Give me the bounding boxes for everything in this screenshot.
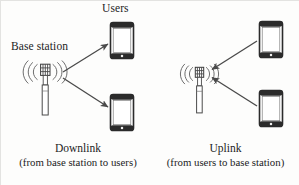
tower-mast xyxy=(42,85,48,115)
downlink-caption-title: Downlink xyxy=(0,142,156,156)
antenna-head-icon xyxy=(195,67,203,77)
base-station-tower-left xyxy=(23,61,67,115)
downlink-arrow-top xyxy=(63,44,108,72)
base-station-label: Base station xyxy=(11,40,68,52)
radio-wave-icon-left xyxy=(23,61,37,83)
base-station-tower-right xyxy=(180,64,219,113)
tower-neck xyxy=(198,77,202,86)
figure-canvas: Users Base station Downlink (from base s… xyxy=(0,0,299,185)
uplink-caption-title: Uplink xyxy=(152,142,299,156)
smartphone-icon-uplink-top xyxy=(260,22,283,58)
users-label: Users xyxy=(102,2,129,14)
uplink-arrow-top xyxy=(212,41,257,70)
downlink-panel xyxy=(23,23,134,131)
tower-mast xyxy=(197,86,203,113)
antenna-head-icon xyxy=(41,64,50,75)
smartphone-icon-downlink-bottom xyxy=(111,95,134,131)
downlink-arrow-bottom xyxy=(63,78,108,107)
tower-neck xyxy=(43,75,47,85)
uplink-caption-subtitle: (from users to base station) xyxy=(152,156,299,170)
radio-wave-icon-left xyxy=(180,64,192,84)
downlink-caption: Downlink (from base station to users) xyxy=(0,142,156,169)
uplink-caption: Uplink (from users to base station) xyxy=(152,142,299,169)
downlink-caption-subtitle: (from base station to users) xyxy=(0,156,156,170)
smartphone-icon-downlink-top xyxy=(111,23,134,59)
uplink-arrow-bottom xyxy=(212,78,257,107)
smartphone-icon-uplink-bottom xyxy=(260,91,283,127)
uplink-panel xyxy=(180,22,282,127)
